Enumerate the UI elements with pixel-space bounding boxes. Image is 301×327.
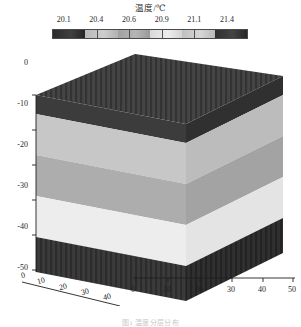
colorbar-tick-label: 20.9: [155, 15, 169, 24]
x-right-axis-label: 10: [163, 285, 171, 294]
x-right-axis-label: 30: [227, 285, 235, 294]
depth-axis-label: -30: [17, 181, 28, 190]
block-left-face: [36, 95, 186, 301]
depth-axis-ticks: [32, 95, 36, 270]
colorbar-title: 温度/℃: [0, 1, 301, 13]
colorbar-tick-label: 21.4: [220, 15, 234, 24]
x-right-axis-label: 0: [131, 285, 135, 294]
colorbar: [52, 29, 248, 39]
figure-caption: 图1 温度分层分布: [0, 317, 301, 327]
block-3d: [0, 48, 301, 306]
plot-area: 0-10-20-30-40-50 010203040 01020304050: [0, 48, 301, 306]
figure-3d-temperature-block: 温度/℃ 20.120.420.620.921.121.4: [0, 0, 301, 327]
x-right-axis-label: 40: [258, 285, 266, 294]
colorbar-gradient: [53, 30, 247, 38]
block-3d-svg: [0, 48, 301, 306]
depth-axis-label: -10: [17, 99, 28, 108]
x-right-axis-label: 50: [288, 285, 296, 294]
colorbar-tick-label: 20.4: [89, 15, 103, 24]
colorbar-tick-label: 20.6: [122, 15, 136, 24]
colorbar-bar: [52, 29, 248, 39]
depth-axis-label: 0: [24, 58, 28, 67]
depth-axis-label: -20: [17, 140, 28, 149]
colorbar-tick-labels: 20.120.420.620.921.121.4: [52, 15, 248, 27]
colorbar-tick-label: 20.1: [57, 15, 71, 24]
x-right-axis-label: 20: [195, 285, 203, 294]
depth-axis-label: -40: [17, 222, 28, 231]
colorbar-tick-label: 21.1: [187, 15, 201, 24]
